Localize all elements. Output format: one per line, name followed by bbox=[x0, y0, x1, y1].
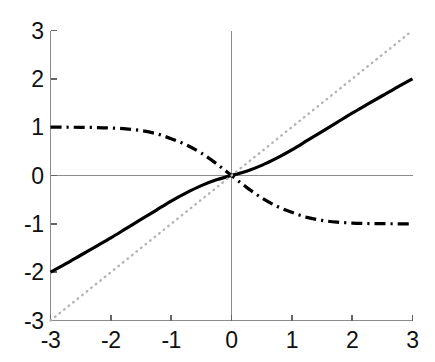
chart-figure: -3-2-10123 -3-2-10123 bbox=[0, 0, 435, 362]
x-tick-label: 1 bbox=[286, 329, 298, 352]
y-tick-label: 0 bbox=[31, 164, 43, 187]
x-tick-label: -1 bbox=[161, 329, 180, 352]
y-tick-label: 1 bbox=[31, 116, 43, 139]
x-tick-label: 2 bbox=[346, 329, 358, 352]
y-tick-label: -2 bbox=[24, 261, 43, 284]
y-tick-label: 3 bbox=[31, 19, 43, 42]
x-tick-label: -2 bbox=[101, 329, 120, 352]
y-tick-label: -1 bbox=[24, 212, 43, 235]
plot-canvas bbox=[0, 0, 435, 362]
y-tick-label: 2 bbox=[31, 67, 43, 90]
x-tick-label: 0 bbox=[225, 329, 237, 352]
x-tick-label: -3 bbox=[41, 329, 60, 352]
x-tick-label: 3 bbox=[406, 329, 418, 352]
